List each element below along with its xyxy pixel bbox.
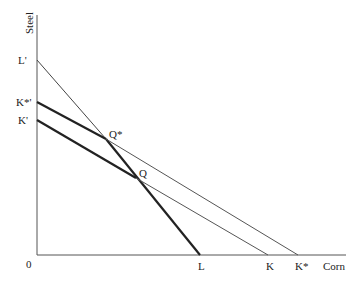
y-axis-label: Steel (23, 12, 35, 34)
label-K-star: K* (295, 260, 308, 272)
line-K-star-prime-lower (106, 139, 298, 255)
label-K-prime: K' (18, 114, 28, 126)
label-L-prime: L' (18, 54, 27, 66)
line-K-prime-lower (136, 178, 268, 255)
label-K-star-prime: K*' (16, 96, 31, 108)
label-K: K (266, 260, 274, 272)
diagram-canvas: Steel Corn 0 L' K*' K' L K K* Q* Q (0, 0, 363, 282)
line-L-prime-L-lower (106, 139, 200, 255)
origin-label: 0 (26, 258, 32, 270)
label-Q: Q (139, 167, 147, 179)
x-axis-label: Corn (323, 260, 346, 272)
line-K-star-prime-upper (37, 102, 106, 139)
label-Q-star: Q* (109, 128, 122, 140)
label-L: L (198, 260, 205, 272)
